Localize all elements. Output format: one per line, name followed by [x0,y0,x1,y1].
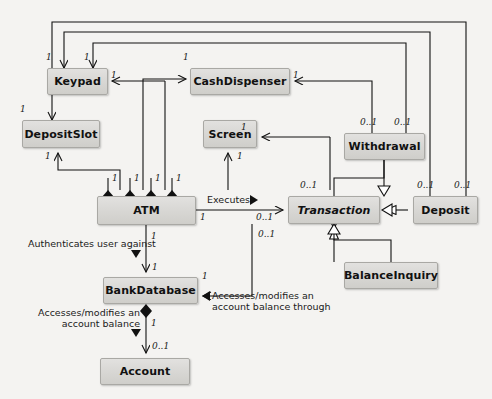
gen-balanceinquiry-transaction [334,229,391,262]
mult-text: 0..1 [152,341,169,351]
class-label-account: Account [120,365,171,378]
multiplicity-bankdatabase-top: 1 [152,262,158,272]
multiplicity-bankdatabase-right: 1 [202,271,208,281]
mult-text: 1 [241,122,247,132]
class-label-transaction: Transaction [298,204,371,217]
mult-text: 1 [293,70,299,80]
class-box-balanceinquiry[interactable]: BalanceInquiry [344,262,438,289]
class-box-transaction[interactable]: Transaction [288,196,380,224]
mult-text: 1 [183,52,189,62]
class-box-screen[interactable]: Screen [203,120,257,148]
multiplicity-keypad-assoc: 1 [111,70,117,80]
multiplicity-atm-part-2: 1 [134,173,140,183]
multiplicity-atm-part-3: 1 [155,173,161,183]
multiplicity-atm-bankdatabase: 1 [151,231,157,241]
multiplicity-atm-part-4: 1 [176,173,182,183]
association-label-accesses-balance: Accesses/modifies an account balance [20,307,140,329]
hollow-triangle-balanceinquiry [328,224,340,234]
class-label-depositslot: DepositSlot [24,128,97,141]
executes-text: Executes [207,194,250,205]
multiplicity-transaction-executes: 0..1 [256,212,273,222]
class-label-deposit: Deposit [421,204,469,217]
association-label-executes: Executes [207,194,250,205]
multiplicity-cashdispenser-right: 1 [293,70,299,80]
mult-text: 1 [151,318,157,328]
mult-text: 1 [20,104,26,114]
hollow-triangle-withdrawal [378,186,390,196]
mult-text: 1 [202,271,208,281]
mult-text: 1 [84,52,90,62]
class-box-cashdispenser[interactable]: CashDispenser [190,68,290,95]
mult-text: 1 [46,52,52,62]
class-box-keypad[interactable]: Keypad [47,68,108,95]
accesses-through-line2: account balance through [212,301,337,312]
multiplicity-withdrawal-keypad: 0..1 [360,117,377,127]
mult-text: 0..1 [300,180,317,190]
class-label-withdrawal: Withdrawal [348,140,420,153]
mult-text: 0..1 [454,180,471,190]
mult-text: 0..1 [394,117,411,127]
association-label-authenticates: Authenticates user against [28,238,156,249]
class-label-cashdispenser: CashDispenser [193,75,286,88]
multiplicity-depositslot-top: 1 [20,104,26,114]
class-box-bankdatabase[interactable]: BankDatabase [103,277,198,304]
class-box-depositslot[interactable]: DepositSlot [22,120,100,148]
multiplicity-keypad-left: 1 [46,52,52,62]
multiplicity-transaction-top: 0..1 [300,180,317,190]
multiplicity-screen-right: 1 [241,122,247,132]
class-label-bankdatabase: BankDatabase [105,284,196,297]
mult-text: 0..1 [256,212,273,222]
uml-class-diagram: Keypad CashDispenser DepositSlot Screen … [0,0,492,399]
multiplicity-atm-executes: 1 [200,212,206,222]
edge-transaction-bankdatabase [203,224,252,296]
multiplicity-screen-bottom: 1 [237,151,243,161]
class-label-keypad: Keypad [54,75,101,88]
mult-text: 1 [237,151,243,161]
hollow-triangle-deposit [382,204,392,216]
mult-text: 1 [112,173,118,183]
multiplicity-deposit-a: 0..1 [417,180,434,190]
authenticates-direction-arrow [131,250,141,258]
mult-text: 0..1 [360,117,377,127]
multiplicity-cashdispenser-left: 1 [183,52,189,62]
accesses-through-direction-arrow [202,291,210,301]
multiplicity-atm-part-1: 1 [112,173,118,183]
class-box-account[interactable]: Account [100,358,190,385]
mult-text: 1 [176,173,182,183]
accesses-through-line1: Accesses/modifies an [212,290,337,301]
accesses-balance-line2: account balance [20,318,140,329]
edge-deposit-keypad [64,32,430,196]
accesses-balance-direction-arrow [131,329,141,337]
mult-text: 1 [45,151,51,161]
mult-text: 1 [111,70,117,80]
executes-direction-arrow [250,195,258,205]
edge-into-depositslot-bottom [58,153,120,190]
multiplicity-deposit-b: 0..1 [454,180,471,190]
mult-text: 0..1 [417,180,434,190]
multiplicity-depositslot-bottom: 1 [45,151,51,161]
class-box-deposit[interactable]: Deposit [413,196,478,224]
association-label-accesses-through: Accesses/modifies an account balance thr… [212,290,337,312]
mult-text: 1 [134,173,140,183]
multiplicity-withdrawal-cashdispenser: 0..1 [394,117,411,127]
mult-text: 0..1 [258,229,275,239]
accesses-balance-line1: Accesses/modifies an [20,307,140,318]
class-box-atm[interactable]: ATM [97,196,196,225]
mult-text: 1 [151,231,157,241]
multiplicity-account-top: 0..1 [152,341,169,351]
mult-text: 1 [152,262,158,272]
multiplicity-bankdatabase-account: 1 [151,318,157,328]
authenticates-text: Authenticates user against [28,238,156,249]
mult-text: 1 [200,212,206,222]
class-label-balanceinquiry: BalanceInquiry [344,269,438,282]
mult-text: 1 [155,173,161,183]
composition-diamond-account [140,304,152,318]
class-label-atm: ATM [133,204,159,217]
class-box-withdrawal[interactable]: Withdrawal [344,133,425,160]
multiplicity-transaction-bottom: 0..1 [258,229,275,239]
multiplicity-keypad-right: 1 [84,52,90,62]
